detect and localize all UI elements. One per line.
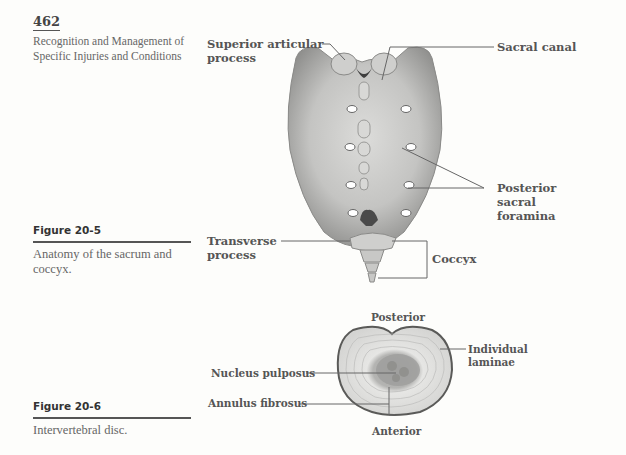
page-number: 462 <box>33 14 60 31</box>
label-transverse-process: Transverse process <box>207 234 287 262</box>
figure-caption: Anatomy of the sacrum and coccyx. <box>33 247 195 277</box>
figure-rule <box>33 241 191 243</box>
figure-rule <box>33 417 191 419</box>
label-posterior-sacral-foramina: Posterior sacral foramina <box>497 181 597 223</box>
sacrum-illustration <box>288 47 442 282</box>
figure-label: Figure 20-6 <box>33 400 101 412</box>
running-head: Recognition and Management of Specific I… <box>33 34 193 64</box>
label-coccyx: Coccyx <box>432 252 476 266</box>
intervertebral-disc-illustration <box>338 327 452 415</box>
label-anterior: Anterior <box>372 425 421 438</box>
label-posterior: Posterior <box>371 311 425 324</box>
figure-label: Figure 20-5 <box>33 224 101 236</box>
label-annulus-fibrosus: Annulus fibrosus <box>208 397 307 410</box>
figure-caption: Intervertebral disc. <box>33 423 195 438</box>
label-individual-laminae: Individual laminae <box>468 343 548 369</box>
label-superior-articular-process: Superior articular process <box>207 37 327 65</box>
label-sacral-canal: Sacral canal <box>497 40 576 54</box>
label-nucleus-pulposus: Nucleus pulposus <box>211 367 315 380</box>
